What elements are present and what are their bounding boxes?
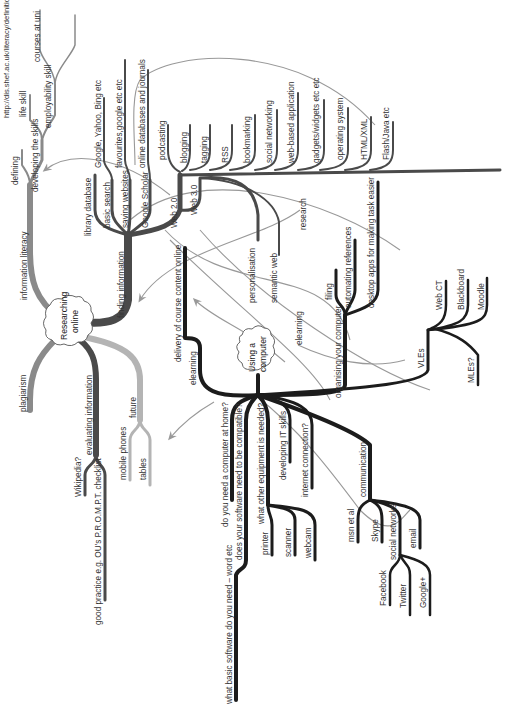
label-printer[interactable]: printer — [261, 532, 270, 555]
label-email[interactable]: email — [409, 528, 418, 548]
label-facebook[interactable]: Facebook — [379, 569, 388, 606]
label-developing-it-skills[interactable]: developing IT skills — [279, 411, 288, 480]
label-mles[interactable]: MLEs? — [467, 357, 476, 383]
link-future-arrow — [170, 402, 214, 438]
link-diagonal-2 — [200, 230, 430, 390]
label-library-database[interactable]: library database — [84, 177, 93, 236]
label-organising-computer[interactable]: organising your computer — [334, 305, 343, 398]
label-blogging[interactable]: blogging — [180, 132, 189, 163]
label-plagiarism[interactable]: plagiarism — [19, 375, 28, 412]
node-researching-online[interactable]: Researching online — [44, 292, 94, 346]
label-operating-system[interactable]: operating system — [336, 97, 345, 160]
label-elearning[interactable]: elearning — [189, 351, 198, 385]
labels-using-a-computer: elearning delivery of course content onl… — [174, 177, 486, 705]
label-filing[interactable]: filing — [325, 283, 334, 300]
label-blackboard[interactable]: Blackboard — [457, 269, 466, 310]
label-life-skill[interactable]: life skill — [19, 90, 28, 117]
label-gadgets-widgets[interactable]: gadgets/widgets etc etc — [312, 77, 321, 163]
label-web-2-0[interactable]: Web 2.0 — [170, 197, 179, 228]
label-moodle[interactable]: Moodle — [477, 283, 486, 310]
label-defining[interactable]: defining — [11, 156, 20, 185]
label-podcasting[interactable]: podcasting — [158, 120, 167, 160]
label-automating-references[interactable]: automating references — [344, 227, 353, 308]
label-tagging[interactable]: tagging — [200, 136, 209, 163]
label-web-ct[interactable]: Web CT — [435, 280, 444, 310]
label-favourites[interactable]: favourites,google etc etc — [115, 79, 124, 168]
label-developing-skills[interactable]: developing the skills — [31, 119, 40, 192]
label-courses-at-uni[interactable]: courses at uni — [33, 11, 42, 62]
node-researching-line1: Researching — [59, 292, 69, 340]
label-google-scholar[interactable]: Google Scholar — [141, 171, 150, 228]
node-using-line2: computer — [258, 336, 268, 372]
label-semantic-web[interactable]: semantic web — [270, 252, 279, 303]
label-internet-connection[interactable]: internet connection? — [301, 423, 310, 497]
node-researching-line2: online — [70, 310, 80, 333]
label-msn[interactable]: msn et al — [347, 509, 356, 542]
label-desktop-apps[interactable]: desktop apps for making task easier — [367, 177, 376, 308]
label-information-literacy[interactable]: information literacy — [20, 230, 29, 300]
link-vles-elearning — [298, 345, 405, 364]
label-wikipedia[interactable]: Wikipedia? — [74, 457, 83, 497]
label-employability-skill[interactable]: employability skill — [44, 65, 53, 128]
mind-map-svg: Researching online Using a computer info… — [0, 0, 506, 707]
label-twitter[interactable]: Twitter — [399, 584, 408, 608]
label-skype[interactable]: Skype — [371, 519, 380, 542]
label-google-yahoo-bing[interactable]: Google, Yahoo, Bing etc — [94, 80, 103, 168]
label-scanner[interactable]: scanner — [284, 528, 293, 557]
label-delivery-course-content[interactable]: delivery of course content online — [174, 244, 183, 362]
label-good-practice[interactable]: good practice e.g. OU's P.R.O.M.P.T. che… — [94, 457, 103, 625]
mind-map-canvas: Researching online Using a computer info… — [0, 0, 506, 707]
node-using-line1: Using a — [247, 343, 257, 372]
label-need-computer-home[interactable]: do you need a computer at home? — [221, 402, 230, 527]
label-finding-information[interactable]: finding information — [117, 251, 126, 318]
label-communication[interactable]: communication — [359, 441, 368, 497]
node-using-a-computer[interactable]: Using a computer — [237, 326, 275, 372]
label-flash-java[interactable]: Flash/Java etc — [382, 107, 391, 160]
label-basic-search[interactable]: basic search — [103, 182, 112, 228]
label-mobile-phones[interactable]: mobile phones — [119, 427, 128, 480]
label-tablets[interactable]: tables — [139, 458, 148, 480]
label-bookmarking[interactable]: bookmarking — [243, 116, 252, 163]
label-google-plus[interactable]: Google+ — [419, 577, 428, 608]
label-url[interactable]: http://dis.shef.ac.uk/literacy/definitio… — [2, 0, 11, 118]
label-research[interactable]: research — [299, 198, 308, 230]
label-webcam[interactable]: webcam — [304, 527, 313, 559]
label-elearning-link[interactable]: elearning — [295, 311, 304, 345]
label-html-xml[interactable]: HTML/XML — [360, 118, 369, 160]
label-social-networks[interactable]: social networks — [389, 504, 398, 560]
link-scholar-down — [165, 230, 350, 340]
label-evaluating-information[interactable]: evaluating information — [85, 374, 94, 455]
label-social-networking[interactable]: social networking — [265, 100, 274, 163]
label-web-3-0[interactable]: Web 3.0 — [190, 184, 199, 215]
label-other-equipment[interactable]: what other equipment is needed? — [257, 402, 266, 525]
label-web-based-application[interactable]: web-based application — [287, 81, 296, 164]
label-personalisation[interactable]: personalisation — [248, 247, 257, 303]
label-future[interactable]: future — [129, 397, 138, 418]
label-software-compatible[interactable]: does your software need to be compatible… — [235, 403, 244, 560]
label-basic-software[interactable]: what basic software do you need – word e… — [225, 545, 234, 705]
label-vles[interactable]: VLEs — [417, 348, 426, 368]
label-rss[interactable]: RSS — [221, 146, 230, 163]
label-saving-websites[interactable]: saving websites — [121, 170, 130, 228]
label-online-databases[interactable]: online databases and journals — [138, 59, 147, 168]
